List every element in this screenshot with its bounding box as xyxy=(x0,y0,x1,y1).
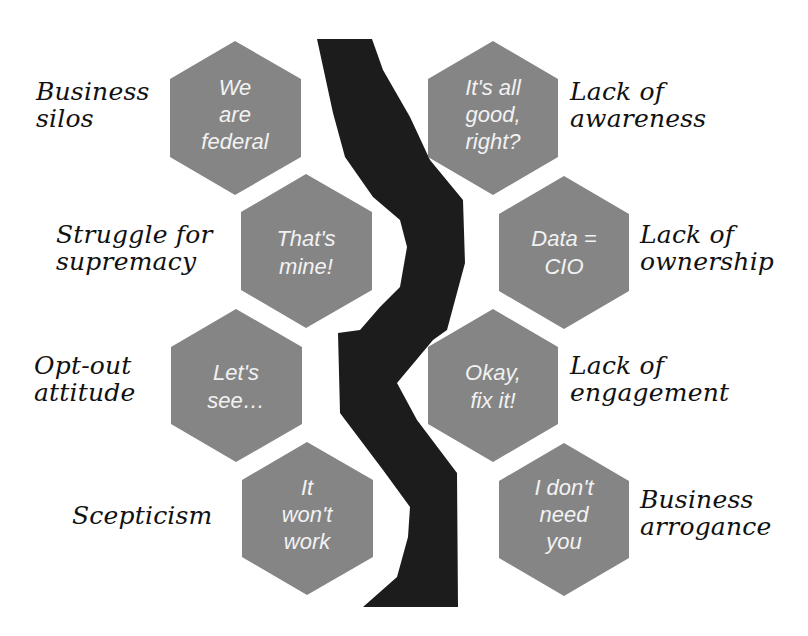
hex-text-line: I don't xyxy=(534,475,594,500)
label-line: arrogance xyxy=(640,513,771,540)
hex-text-line: won't xyxy=(282,502,334,527)
label-business-silos: Business silos xyxy=(36,78,149,132)
hex-text-line: That's xyxy=(276,226,335,251)
label-line: Scepticism xyxy=(72,502,213,529)
label-line: Business xyxy=(36,78,149,105)
label-line: supremacy xyxy=(56,248,213,275)
label-lack-of-ownership: Lack of ownership xyxy=(640,221,774,275)
hexagon-i-dont-need-you: I don't need you xyxy=(499,443,629,596)
label-line: awareness xyxy=(570,105,706,132)
hex-text-line: right? xyxy=(465,129,521,154)
hex-text-line: work xyxy=(284,529,331,554)
hex-text-line: fix it! xyxy=(470,388,515,413)
label-line: Opt-out xyxy=(34,352,136,379)
hexagon-we-are-federal: We are federal xyxy=(170,41,301,195)
label-line: Lack of xyxy=(570,78,706,105)
label-opt-out-attitude: Opt-out attitude xyxy=(34,352,136,406)
label-lack-of-awareness: Lack of awareness xyxy=(570,78,706,132)
label-line: silos xyxy=(36,105,149,132)
hex-text-line: Let's xyxy=(213,360,259,385)
hexagon-its-all-good-right: It's all good, right? xyxy=(428,41,558,195)
label-lack-of-engagement: Lack of engagement xyxy=(570,352,729,406)
hex-text-line: It's all xyxy=(465,75,522,100)
label-line: Struggle for xyxy=(56,221,213,248)
hexagon-thats-mine: That's mine! xyxy=(241,174,372,328)
label-line: engagement xyxy=(570,379,729,406)
label-scepticism: Scepticism xyxy=(72,502,213,529)
hex-text-line: see… xyxy=(207,388,264,413)
hex-text-line: you xyxy=(544,529,581,554)
hex-text-line: Data = xyxy=(531,226,597,251)
hex-text-line: are xyxy=(219,102,251,127)
label-line: ownership xyxy=(640,248,774,275)
label-line: attitude xyxy=(34,379,136,406)
label-line: Business xyxy=(640,486,771,513)
hex-text-line: mine! xyxy=(279,254,333,279)
label-line: Lack of xyxy=(640,221,774,248)
hexagon-data-equals-cio: Data = CIO xyxy=(499,176,629,329)
hexagon-it-wont-work: It won't work xyxy=(242,442,373,595)
hex-text-line: Okay, xyxy=(465,360,521,385)
label-struggle-for-supremacy: Struggle for supremacy xyxy=(56,221,213,275)
hex-text-line: need xyxy=(540,502,590,527)
hex-text-line: federal xyxy=(201,129,269,154)
label-business-arrogance: Business arrogance xyxy=(640,486,771,540)
hexagon-okay-fix-it: Okay, fix it! xyxy=(428,309,558,462)
hexagon-lets-see: Let's see… xyxy=(171,309,302,462)
hex-text-line: CIO xyxy=(544,254,583,279)
hex-text-line: We xyxy=(219,75,252,100)
hex-text-line: It xyxy=(301,475,314,500)
label-line: Lack of xyxy=(570,352,729,379)
hex-text-line: good, xyxy=(465,102,520,127)
